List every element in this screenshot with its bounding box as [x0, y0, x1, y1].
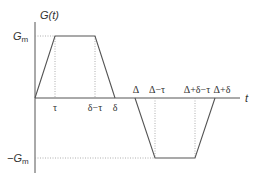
tick-delta: δ [113, 102, 118, 113]
gradient-waveform-diagram: G(t) Gm −Gm t τ δ−τ δ Δ Δ−τ Δ+δ−τ Δ+δ [0, 0, 255, 183]
tick-Delta-plus-delta: Δ+δ [214, 84, 231, 95]
positive-gradient-lobe [35, 36, 115, 98]
tick-Delta: Δ [133, 84, 140, 95]
x-axis-label: t [245, 92, 249, 104]
gm-negative-label: −Gm [7, 152, 29, 166]
tick-tau: τ [53, 102, 57, 113]
y-axis-label: G(t) [40, 9, 59, 21]
negative-gradient-lobe [135, 98, 215, 158]
gm-positive-label: Gm [13, 30, 29, 44]
tick-Delta-minus-tau: Δ−τ [149, 84, 165, 95]
tick-Delta-plus-delta-minus-tau: Δ+δ−τ [184, 84, 210, 95]
tick-delta-minus-tau: δ−τ [88, 102, 102, 113]
